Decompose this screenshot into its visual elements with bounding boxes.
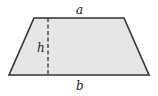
- trapezoid-diagram: a h b: [0, 0, 158, 96]
- label-h: h: [37, 41, 45, 55]
- label-a: a: [76, 3, 83, 17]
- label-b: b: [76, 79, 84, 93]
- trapezoid-shape: [9, 18, 149, 75]
